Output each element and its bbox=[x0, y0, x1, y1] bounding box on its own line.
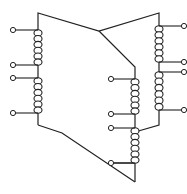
terminal-icon bbox=[108, 160, 113, 165]
coil-left-lower bbox=[13, 78, 42, 114]
coils bbox=[13, 26, 184, 164]
coil-left-upper bbox=[13, 30, 42, 66]
wire bbox=[38, 13, 159, 132]
terminal-icon bbox=[10, 110, 15, 115]
terminal-icon bbox=[10, 75, 15, 80]
terminal-icon bbox=[108, 76, 113, 81]
coil-right-lower bbox=[155, 72, 184, 111]
terminal-icon bbox=[181, 69, 186, 74]
wire bbox=[38, 125, 135, 182]
coil-middle-lower bbox=[111, 128, 139, 164]
terminal-icon bbox=[181, 107, 186, 112]
wires bbox=[38, 13, 159, 182]
wire bbox=[99, 31, 135, 182]
coil-middle-upper bbox=[111, 79, 139, 115]
terminal-icon bbox=[108, 111, 113, 116]
coil-right-upper bbox=[155, 26, 184, 63]
terminal-icon bbox=[181, 23, 186, 28]
terminal-icon bbox=[10, 62, 15, 67]
terminal-icon bbox=[108, 125, 113, 130]
terminal-icon bbox=[10, 27, 15, 32]
transformer-diagram bbox=[0, 0, 187, 194]
terminal-icon bbox=[181, 59, 186, 64]
